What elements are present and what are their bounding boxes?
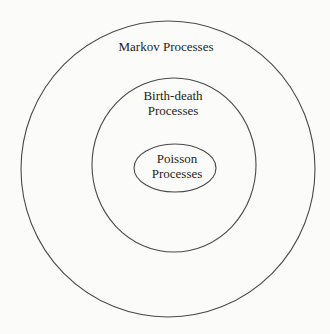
markov-processes-label: Markov Processes [119,39,214,54]
poisson-label-line1: Poisson [157,151,198,166]
birth-death-label-line2: Processes [148,103,199,118]
birth-death-label-line1: Birth-death [143,88,203,103]
poisson-label-line2: Processes [152,166,203,181]
processes-venn-diagram: Markov Processes Birth-death Processes P… [0,0,330,334]
